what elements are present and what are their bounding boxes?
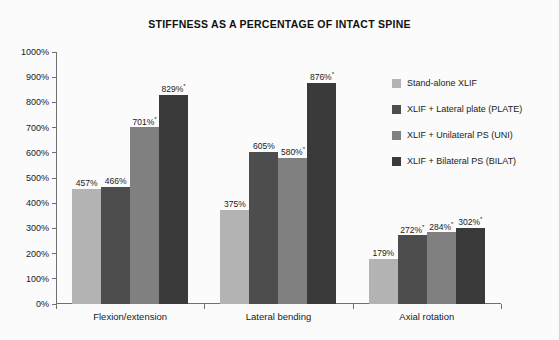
bar-rect[interactable]	[307, 83, 336, 304]
x-axis-tick-mark	[56, 304, 57, 309]
legend-swatch	[392, 105, 401, 114]
bar[interactable]: 375%	[220, 210, 249, 305]
x-axis-category-label: Axial rotation	[353, 311, 501, 322]
y-axis-tick: 800%	[26, 97, 56, 107]
bar-value-label: 829%*	[162, 83, 186, 94]
y-axis-tick-label: 900%	[26, 72, 52, 82]
bar-rect[interactable]	[398, 235, 427, 304]
x-axis-tick-mark	[353, 304, 354, 309]
bar[interactable]: 829%*	[159, 95, 188, 304]
legend-item[interactable]: XLIF + Lateral plate (PLATE)	[392, 104, 557, 114]
bar-rect[interactable]	[427, 232, 456, 304]
y-axis-tick: 200%	[26, 249, 56, 259]
y-axis-tick: 100%	[26, 274, 56, 284]
y-axis-tick-label: 800%	[26, 97, 52, 107]
bar-rect[interactable]	[249, 152, 278, 304]
x-axis-tick-mark	[501, 304, 502, 309]
y-axis-tick: 600%	[26, 148, 56, 158]
y-axis-tick: 700%	[26, 123, 56, 133]
bar-rect[interactable]	[369, 259, 398, 304]
bar-value-label: 876%*	[310, 71, 334, 82]
y-axis-tick: 900%	[26, 72, 56, 82]
legend-label: XLIF + Lateral plate (PLATE)	[407, 104, 522, 114]
x-axis-category-label: Flexion/extension	[56, 311, 204, 322]
legend-item[interactable]: XLIF + Bilateral PS (BILAT)	[392, 156, 557, 166]
y-axis-tick: 300%	[26, 223, 56, 233]
bar[interactable]: 466%	[101, 187, 130, 304]
y-axis-tick-label: 600%	[26, 148, 52, 158]
bar-value-label: 580%*	[281, 146, 305, 157]
y-axis-tick-label: 400%	[26, 198, 52, 208]
bar-value-label: 457%	[76, 178, 98, 188]
legend-swatch	[392, 157, 401, 166]
x-axis-tick-mark	[204, 304, 205, 309]
y-axis-tick-label: 200%	[26, 249, 52, 259]
bar-rect[interactable]	[220, 210, 249, 305]
bar-rect[interactable]	[101, 187, 130, 304]
bars-row: 375%605%580%*876%*	[204, 52, 352, 304]
x-axis-category-label: Lateral bending	[204, 311, 352, 322]
bar[interactable]: 701%*	[130, 127, 159, 304]
chart-legend: Stand-alone XLIFXLIF + Lateral plate (PL…	[392, 78, 557, 182]
bar[interactable]: 284%*	[427, 232, 456, 304]
bar-rect[interactable]	[456, 228, 485, 304]
chart-title: STIFFNESS AS A PERCENTAGE OF INTACT SPIN…	[0, 18, 559, 30]
bar-value-label: 375%	[224, 199, 246, 209]
y-axis-tick: 0%	[36, 299, 56, 309]
y-axis-tick-label: 300%	[26, 223, 52, 233]
bar-value-label: 302%*	[458, 216, 482, 227]
y-axis-tick-label: 0%	[36, 299, 52, 309]
bar[interactable]: 457%	[72, 189, 101, 304]
y-axis-tick-label: 1000%	[21, 47, 52, 57]
y-axis-tick-label: 500%	[26, 173, 52, 183]
bar-rect[interactable]	[72, 189, 101, 304]
bar-value-label: 179%	[372, 248, 394, 258]
bar[interactable]: 605%	[249, 152, 278, 304]
legend-swatch	[392, 79, 401, 88]
legend-label: Stand-alone XLIF	[407, 78, 477, 88]
bar-rect[interactable]	[159, 95, 188, 304]
y-axis-tick-label: 700%	[26, 123, 52, 133]
bar-value-label: 701%*	[133, 116, 157, 127]
bars-row: 457%466%701%*829%*	[56, 52, 204, 304]
legend-item[interactable]: Stand-alone XLIF	[392, 78, 557, 88]
bar-value-label: 284%*	[429, 221, 453, 232]
legend-item[interactable]: XLIF + Unilateral PS (UNI)	[392, 130, 557, 140]
bar-group: 375%605%580%*876%*Lateral bending	[204, 52, 352, 304]
bar[interactable]: 272%*	[398, 235, 427, 304]
y-axis-tick-label: 100%	[26, 274, 52, 284]
bar-rect[interactable]	[130, 127, 159, 304]
bar[interactable]: 179%	[369, 259, 398, 304]
bar-chart: STIFFNESS AS A PERCENTAGE OF INTACT SPIN…	[0, 0, 559, 340]
bar[interactable]: 580%*	[278, 158, 307, 304]
bar[interactable]: 302%*	[456, 228, 485, 304]
y-axis-tick: 500%	[26, 173, 56, 183]
bar-group: 457%466%701%*829%*Flexion/extension	[56, 52, 204, 304]
legend-swatch	[392, 131, 401, 140]
y-axis-tick: 1000%	[21, 47, 56, 57]
bar-rect[interactable]	[278, 158, 307, 304]
legend-label: XLIF + Bilateral PS (BILAT)	[407, 156, 516, 166]
legend-label: XLIF + Unilateral PS (UNI)	[407, 130, 513, 140]
bar[interactable]: 876%*	[307, 83, 336, 304]
bar-value-label: 466%	[105, 176, 127, 186]
bar-value-label: 605%	[253, 141, 275, 151]
y-axis-tick: 400%	[26, 198, 56, 208]
bar-value-label: 272%*	[400, 224, 424, 235]
